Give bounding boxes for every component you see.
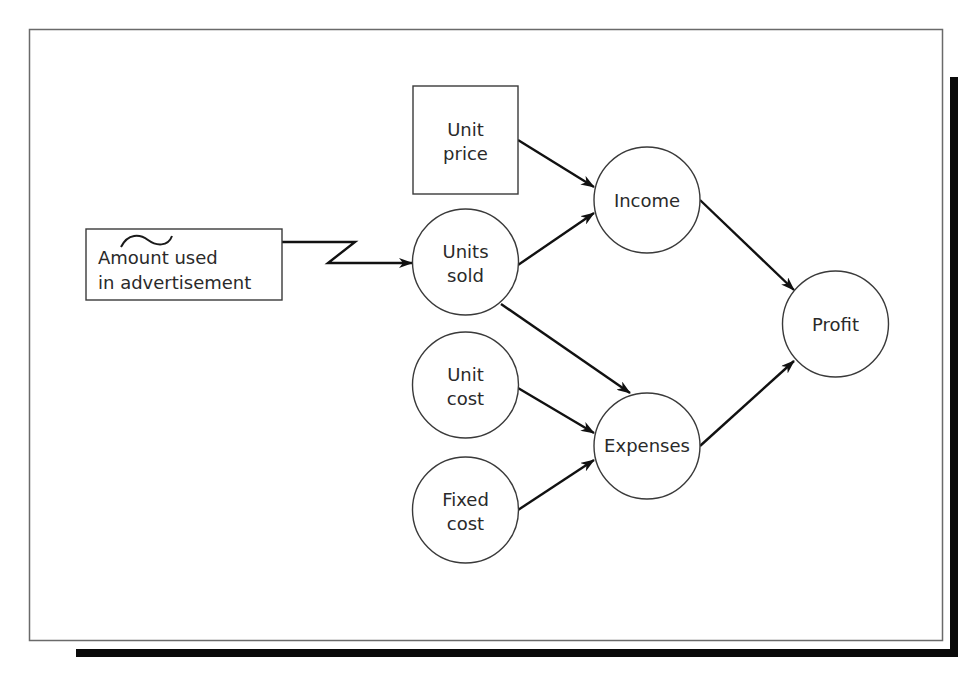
node-unit-cost: Unit cost: [413, 332, 519, 438]
units-sold-label-line-2: sold: [447, 265, 484, 286]
units-sold-circle: [413, 209, 519, 315]
node-expenses: Expenses: [594, 393, 700, 499]
svg-text:Unit: Unit: [447, 364, 484, 385]
profit-label: Profit: [812, 314, 859, 335]
unit-price-box: [413, 86, 518, 194]
income-label: Income: [614, 190, 680, 211]
node-income: Income: [594, 147, 700, 253]
frame-shadow-bottom: [76, 649, 958, 657]
svg-text:Expenses: Expenses: [604, 435, 690, 456]
node-unit-price: Unit price: [413, 86, 518, 194]
svg-text:Fixed: Fixed: [442, 489, 489, 510]
unit-price-label-line-1: Unit: [447, 119, 484, 140]
unit-cost-label-line-2: cost: [447, 388, 484, 409]
node-profit: Profit: [783, 271, 889, 377]
svg-text:Amount used: Amount used: [98, 247, 218, 268]
node-fixed-cost: Fixed cost: [413, 457, 519, 563]
frame-shadow-right: [950, 77, 958, 657]
svg-text:Income: Income: [614, 190, 680, 211]
unit-price-label-line-2: price: [443, 143, 488, 164]
unit-cost-label-line-1: Unit: [447, 364, 484, 385]
svg-text:in advertisement: in advertisement: [98, 272, 251, 293]
node-advertisement: Amount used in advertisement: [86, 229, 282, 300]
advertisement-label-line-2: in advertisement: [98, 272, 251, 293]
fixed-cost-circle: [413, 457, 519, 563]
svg-text:cost: cost: [447, 388, 484, 409]
fixed-cost-label-line-1: Fixed: [442, 489, 489, 510]
svg-text:price: price: [443, 143, 488, 164]
node-units-sold: Units sold: [413, 209, 519, 315]
expenses-label: Expenses: [604, 435, 690, 456]
fixed-cost-label-line-2: cost: [447, 513, 484, 534]
unit-cost-circle: [413, 332, 519, 438]
svg-text:Profit: Profit: [812, 314, 859, 335]
svg-text:Units: Units: [442, 241, 488, 262]
svg-text:sold: sold: [447, 265, 484, 286]
svg-text:cost: cost: [447, 513, 484, 534]
advertisement-label-line-1: Amount used: [98, 247, 218, 268]
units-sold-label-line-1: Units: [442, 241, 488, 262]
svg-text:Unit: Unit: [447, 119, 484, 140]
influence-diagram: Amount used in advertisement Unit price …: [0, 0, 977, 676]
